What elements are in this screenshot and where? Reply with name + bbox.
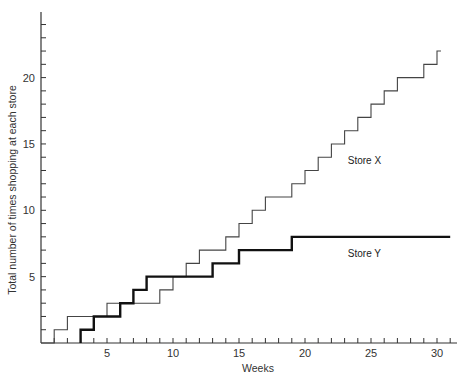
store-x-line: [41, 51, 441, 343]
store-y-label: Store Y: [348, 248, 381, 259]
step-chart: 510152051015202530 Store XStore Y Weeks …: [0, 0, 470, 383]
store-y-line: [81, 237, 451, 343]
x-tick-label: 10: [167, 347, 179, 359]
y-tick-label: 20: [23, 72, 35, 84]
y-tick-label: 15: [23, 138, 35, 150]
x-tick-label: 30: [431, 347, 443, 359]
y-axis-title: Total number of times shopping at each s…: [6, 85, 18, 295]
series-group: Store XStore Y: [41, 51, 450, 343]
axes: 510152051015202530: [23, 12, 457, 359]
store-x-label: Store X: [348, 155, 382, 166]
x-tick-label: 25: [365, 347, 377, 359]
x-axis-title: Weeks: [242, 362, 274, 374]
x-tick-label: 15: [233, 347, 245, 359]
x-tick-label: 5: [104, 347, 110, 359]
y-tick-label: 5: [29, 271, 35, 283]
y-tick-label: 10: [23, 204, 35, 216]
x-tick-label: 20: [299, 347, 311, 359]
